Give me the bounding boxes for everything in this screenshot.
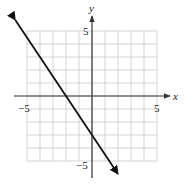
y-axis-label: y bbox=[88, 2, 94, 14]
y-tick-label-min: −5 bbox=[76, 159, 88, 171]
y-tick-label-max: 5 bbox=[83, 25, 89, 37]
x-tick-label-max: 5 bbox=[154, 102, 160, 114]
x-tick-label-min: −5 bbox=[18, 102, 30, 114]
coordinate-plane: x y −5 5 5 −5 bbox=[0, 0, 189, 190]
x-axis-label: x bbox=[172, 90, 178, 102]
function-line bbox=[15, 20, 118, 174]
